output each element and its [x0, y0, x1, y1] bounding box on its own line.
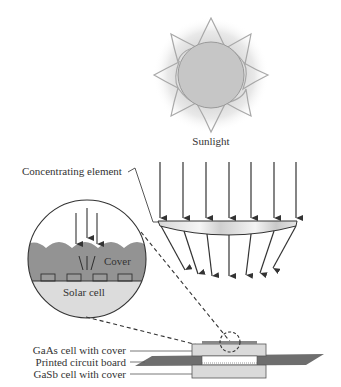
sun-icon: [153, 17, 269, 133]
gaas-cell-label: GaAs cell with cover: [33, 344, 126, 356]
concentrating-lens: [158, 221, 297, 235]
cell-stack: [135, 332, 324, 378]
cover-label: Cover: [104, 255, 131, 267]
concentrating-element-label: Concentrating element: [22, 165, 122, 177]
pcb-label: Printed circuit board: [36, 356, 127, 368]
concentrator-diagram: Sunlight Concentrating element: [0, 0, 341, 387]
gasb-cell-label: GaSb cell with cover: [33, 368, 126, 380]
sunlight-label: Sunlight: [192, 135, 229, 147]
incoming-rays: [160, 162, 296, 218]
gasb-cell: [192, 365, 266, 378]
concentrating-element-leader: [128, 168, 160, 222]
detail-magnifier: Cover Solar cell: [20, 195, 160, 341]
gaas-cell: [192, 344, 266, 356]
solar-cell-label: Solar cell: [63, 286, 105, 298]
